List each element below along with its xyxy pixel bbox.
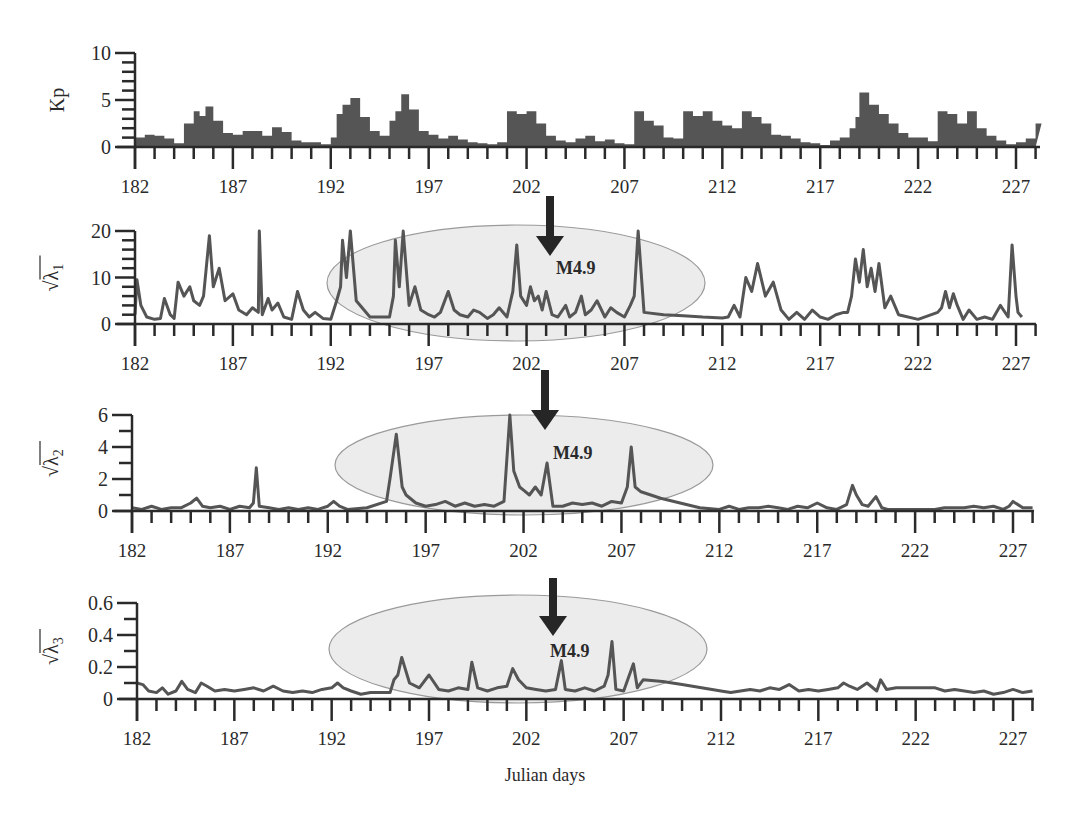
y-tick-label: 0.2 (88, 656, 113, 678)
event-arrow-shaft (549, 578, 557, 618)
y-axis-label: √λ1 (40, 256, 66, 292)
x-tick-label: 207 (607, 540, 636, 561)
x-tick-label: 207 (610, 176, 639, 197)
x-tick-label: 187 (219, 353, 248, 374)
event-arrow-shaft (546, 196, 554, 238)
panel-1: 1821871921972022072122172222270510Kp (46, 42, 1042, 197)
panel-2: 18218719219720220721221722222701020√λ1M4… (40, 196, 1036, 374)
x-tick-label: 192 (314, 540, 343, 561)
panel-4: 18218719219720220721221722222700.20.40.6… (40, 578, 1034, 749)
y-tick-label: 0 (98, 500, 108, 522)
y-tick-label: 6 (98, 404, 108, 426)
y-tick-label: 0 (103, 688, 113, 710)
x-tick-label: 217 (804, 728, 833, 749)
y-tick-label: 10 (91, 267, 111, 289)
x-tick-label: 222 (901, 728, 930, 749)
x-tick-label: 197 (414, 176, 443, 197)
x-tick-label: 182 (121, 353, 150, 374)
y-tick-label: 10 (91, 42, 111, 64)
multi-panel-chart: 1821871921972022072122172222270510Kp1821… (0, 0, 1087, 828)
x-tick-label: 212 (708, 176, 737, 197)
x-tick-label: 212 (708, 353, 737, 374)
x-tick-label: 217 (803, 540, 832, 561)
y-tick-label: 5 (101, 89, 111, 111)
x-tick-label: 182 (121, 176, 150, 197)
x-tick-label: 187 (219, 176, 248, 197)
x-tick-label: 182 (118, 540, 147, 561)
y-tick-label: 0 (101, 136, 111, 158)
kp-histogram (135, 92, 1042, 147)
x-tick-label: 202 (512, 728, 541, 749)
x-tick-label: 222 (901, 540, 930, 561)
event-label: M4.9 (550, 641, 590, 661)
event-label: M4.9 (556, 258, 596, 278)
x-tick-label: 207 (610, 353, 639, 374)
x-tick-label: 202 (512, 353, 541, 374)
y-tick-label: 4 (98, 436, 108, 458)
x-tick-label: 192 (317, 728, 346, 749)
y-tick-label: 0.6 (88, 592, 113, 614)
x-tick-label: 187 (216, 540, 245, 561)
svg-text:√λ1: √λ1 (40, 264, 66, 292)
x-tick-label: 192 (317, 353, 346, 374)
x-tick-label: 212 (705, 540, 734, 561)
x-tick-label: 227 (1002, 353, 1031, 374)
event-window-ellipse (329, 595, 707, 703)
x-tick-label: 197 (411, 540, 440, 561)
x-tick-label: 207 (609, 728, 638, 749)
x-tick-label: 187 (220, 728, 249, 749)
x-tick-label: 192 (317, 176, 346, 197)
event-label: M4.9 (553, 443, 593, 463)
x-axis-title: Julian days (505, 765, 586, 785)
x-tick-label: 182 (123, 728, 152, 749)
x-tick-label: 212 (707, 728, 736, 749)
y-axis-label: Kp (46, 88, 69, 112)
svg-text:Kp: Kp (46, 88, 69, 112)
x-tick-label: 202 (509, 540, 538, 561)
y-tick-label: 20 (91, 220, 111, 242)
svg-text:√λ3: √λ3 (40, 637, 66, 665)
y-axis-label: √λ3 (40, 629, 66, 665)
x-tick-label: 227 (999, 540, 1028, 561)
x-tick-label: 227 (1002, 176, 1031, 197)
y-axis-label: √λ2 (40, 441, 66, 477)
x-tick-label: 217 (806, 176, 835, 197)
y-tick-label: 0.4 (88, 624, 113, 646)
panel-3: 1821871921972022072122172222270246√λ2M4.… (40, 370, 1034, 561)
x-tick-label: 202 (512, 176, 541, 197)
chart-canvas: 1821871921972022072122172222270510Kp1821… (0, 0, 1087, 828)
x-tick-label: 222 (904, 176, 933, 197)
svg-text:√λ2: √λ2 (40, 449, 66, 477)
x-tick-label: 222 (904, 353, 933, 374)
x-tick-label: 217 (806, 353, 835, 374)
event-arrow-shaft (541, 370, 549, 412)
y-tick-label: 0 (101, 313, 111, 335)
x-tick-label: 197 (414, 353, 443, 374)
y-tick-label: 2 (98, 468, 108, 490)
x-tick-label: 227 (999, 728, 1028, 749)
x-tick-label: 197 (415, 728, 444, 749)
